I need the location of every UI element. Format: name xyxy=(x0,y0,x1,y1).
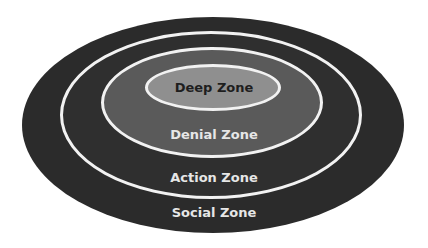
denial-zone-label: Denial Zone xyxy=(0,127,428,142)
zone-diagram: Deep Zone Denial Zone Action Zone Social… xyxy=(0,0,428,248)
deep-zone-label: Deep Zone xyxy=(0,80,428,95)
social-zone-label: Social Zone xyxy=(0,205,428,220)
action-zone-label: Action Zone xyxy=(0,170,428,185)
